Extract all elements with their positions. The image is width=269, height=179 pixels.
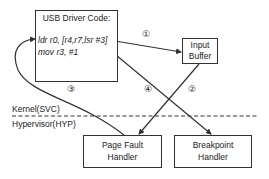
usb-driver-code-title: USB Driver Code: [35,13,118,24]
step-4-marker: ④ [142,83,154,95]
page-fault-handler-label-line2: Handler [83,152,162,163]
code-line-ldr: ldr r0, [r4,r7,lsr #3] [38,34,107,46]
breakpoint-handler-label-line2: Handler [174,152,252,163]
input-buffer-label-line1: Input [182,40,218,51]
code-line-mov: mov r3, #1 [38,46,78,58]
step-1-marker: ① [140,28,152,40]
step-3-marker: ③ [65,83,77,95]
edge-1-arrow [115,41,181,52]
input-buffer-label-line2: Buffer [182,51,218,62]
hypervisor-hyp-label: Hypervisor(HYP) [12,119,76,129]
step-2-marker: ② [186,83,198,95]
kernel-svc-label: Kernel(SVC) [12,104,60,114]
breakpoint-handler-label-line1: Breakpoint [174,140,252,151]
page-fault-handler-label-line1: Page Fault [83,140,162,151]
